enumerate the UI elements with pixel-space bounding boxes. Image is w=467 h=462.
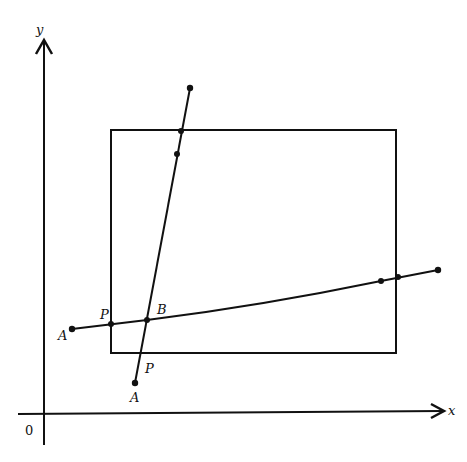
point-steep-start-A	[132, 380, 138, 386]
clipping-diagram: y x 0 A P B P A	[0, 0, 467, 462]
label-P-bottom: P	[144, 361, 154, 376]
label-B: B	[156, 302, 167, 317]
point-shallow-inner	[378, 278, 384, 284]
x-axis-label: x	[448, 403, 456, 418]
point-shallow-end	[435, 267, 441, 273]
label-A-bottom: A	[129, 390, 139, 405]
label-P-left: P	[99, 307, 109, 322]
point-steep-top-edge	[178, 128, 184, 134]
y-axis-label: y	[35, 22, 44, 37]
origin-label: 0	[25, 423, 33, 438]
shallow-line	[72, 270, 438, 329]
axes	[18, 40, 444, 445]
point-intersection-B	[144, 317, 150, 323]
point-shallow-right-edge	[395, 274, 401, 280]
point-shallow-left-edge-P	[108, 321, 114, 327]
point-steep-inner	[174, 151, 180, 157]
point-steep-end	[187, 85, 193, 91]
point-shallow-start-A	[69, 326, 75, 332]
x-axis	[18, 411, 442, 414]
label-A-left: A	[57, 328, 67, 343]
